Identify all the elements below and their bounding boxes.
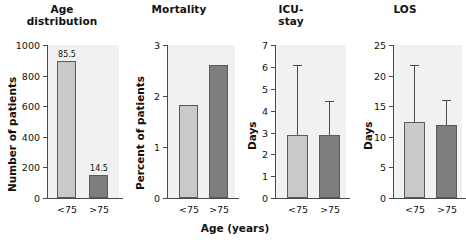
- y-tick: [163, 96, 167, 97]
- y-axis-line: [275, 45, 276, 199]
- panel-title: ICU- stay: [234, 4, 348, 27]
- x-tick-label-under-75: <75: [173, 205, 205, 215]
- x-axis-line: [275, 198, 350, 199]
- y-tick: [43, 45, 47, 46]
- y-tick: [389, 198, 393, 199]
- y-tick-label: 20: [362, 72, 386, 82]
- y-tick: [389, 137, 393, 138]
- y-tick-label: 5: [362, 163, 386, 173]
- y-tick-label: 1: [248, 172, 268, 182]
- panel-age-distribution: Age distribution Number of patients 0 20…: [0, 0, 124, 244]
- y-tick: [163, 147, 167, 148]
- error-bar-over-75: [329, 101, 330, 135]
- x-tick-label-under-75: <75: [282, 205, 314, 215]
- y-tick-label: 0: [248, 194, 268, 204]
- y-tick: [389, 45, 393, 46]
- y-tick: [271, 133, 275, 134]
- y-tick: [271, 154, 275, 155]
- x-tick-label-under-75: <75: [51, 205, 83, 215]
- y-tick-label: 200: [8, 163, 40, 173]
- y-tick-label: 10: [362, 133, 386, 143]
- panel-los: LOS Days 0 5 10 15 20 25 <75 >75: [348, 0, 462, 244]
- x-axis-line: [47, 198, 123, 199]
- y-tick: [389, 76, 393, 77]
- y-tick-label: 6: [248, 63, 268, 73]
- y-tick: [163, 45, 167, 46]
- panel-title: Mortality: [124, 4, 234, 16]
- y-tick-label: 4: [248, 107, 268, 117]
- y-tick: [389, 106, 393, 107]
- y-tick: [43, 76, 47, 77]
- y-tick: [271, 176, 275, 177]
- y-tick-label: 15: [362, 102, 386, 112]
- panel-mortality: Mortality Percent of patients 0 1 2 3 <7…: [124, 0, 234, 244]
- y-tick-label: 0: [362, 194, 386, 204]
- y-tick-label: 0: [138, 194, 160, 204]
- error-bar-cap-under-75: [410, 65, 419, 66]
- error-bar-over-75: [446, 100, 447, 125]
- bar-under-75: [287, 135, 308, 198]
- bar-value-under-75: 85.5: [52, 51, 82, 59]
- y-tick-label: 7: [248, 41, 268, 51]
- y-tick-label: 0: [8, 194, 40, 204]
- bar-over-75: [209, 65, 228, 198]
- error-bar-under-75: [414, 65, 415, 122]
- bar-over-75: [319, 135, 340, 198]
- x-axis-line: [393, 198, 466, 199]
- bar-under-75: [179, 105, 198, 198]
- y-axis-line: [167, 45, 168, 199]
- y-tick: [271, 45, 275, 46]
- y-tick-label: 1: [138, 143, 160, 153]
- panel-title: Age distribution: [0, 4, 124, 27]
- y-tick-label: 3: [248, 129, 268, 139]
- x-tick-label-over-75: >75: [203, 205, 235, 215]
- x-tick-label-over-75: >75: [83, 205, 115, 215]
- y-tick: [43, 167, 47, 168]
- y-tick: [271, 89, 275, 90]
- x-axis-line: [167, 198, 239, 199]
- y-tick-label: 600: [8, 102, 40, 112]
- y-tick-label: 2: [248, 150, 268, 160]
- error-bar-cap-over-75: [442, 100, 451, 101]
- y-tick: [43, 137, 47, 138]
- panel-title: LOS: [348, 4, 462, 16]
- bar-under-75: [57, 61, 76, 198]
- y-tick: [389, 167, 393, 168]
- x-tick-label-over-75: >75: [431, 205, 463, 215]
- y-tick: [163, 198, 167, 199]
- y-tick: [271, 198, 275, 199]
- x-axis-title: Age (years): [0, 222, 462, 234]
- error-bar-under-75: [297, 65, 298, 135]
- bar-value-over-75: 14.5: [84, 165, 114, 173]
- x-tick-label-under-75: <75: [399, 205, 431, 215]
- bar-under-75: [404, 122, 425, 198]
- error-bar-cap-under-75: [293, 65, 302, 66]
- y-tick-label: 2: [138, 92, 160, 102]
- x-axis-title-text: Age (years): [201, 222, 270, 234]
- y-tick-label: 800: [8, 72, 40, 82]
- y-tick: [43, 106, 47, 107]
- y-axis-line: [393, 45, 394, 199]
- y-axis-line: [47, 45, 48, 199]
- bar-over-75: [89, 175, 108, 198]
- y-tick: [271, 111, 275, 112]
- panel-icu-stay: ICU- stay Days 0 1 2 3 4 5 6 7 <75 >75: [234, 0, 348, 244]
- x-tick-label-over-75: >75: [314, 205, 346, 215]
- bar-over-75: [436, 125, 457, 198]
- y-tick-label: 5: [248, 85, 268, 95]
- y-tick: [43, 198, 47, 199]
- y-tick-label: 1000: [8, 41, 40, 51]
- y-tick: [271, 67, 275, 68]
- y-tick-label: 400: [8, 133, 40, 143]
- y-tick-label: 3: [138, 41, 160, 51]
- error-bar-cap-over-75: [325, 101, 334, 102]
- y-tick-label: 25: [362, 41, 386, 51]
